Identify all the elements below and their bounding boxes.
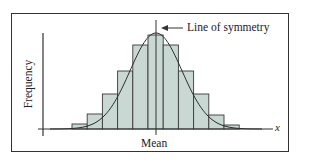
histogram-bar xyxy=(118,71,133,129)
y-axis-label: Frequency xyxy=(22,60,34,109)
histogram-bar xyxy=(133,45,148,129)
histogram-bar xyxy=(102,94,117,129)
arrow-icon xyxy=(161,25,183,31)
histogram-bar xyxy=(87,114,102,129)
line-of-symmetry-label: Line of symmetry xyxy=(187,21,269,33)
x-axis-label: x xyxy=(275,121,280,133)
mean-label: Mean xyxy=(141,137,167,149)
